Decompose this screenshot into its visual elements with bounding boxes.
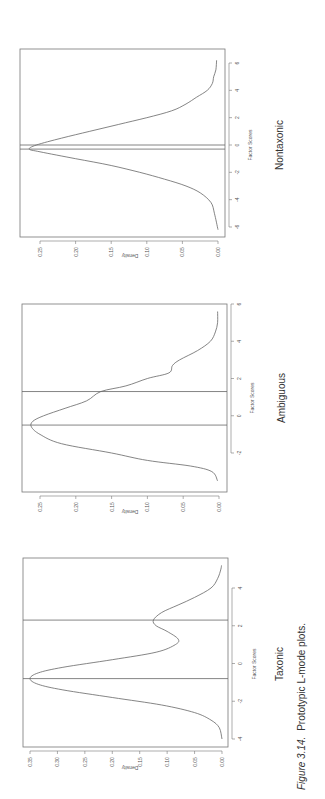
factor-score-tick-label: 4 <box>236 340 242 343</box>
factor-scores-axis: -20246 <box>231 302 242 455</box>
plot-frame <box>22 304 227 492</box>
cutoff-lines <box>20 145 225 149</box>
density-curve <box>30 565 222 739</box>
figure-caption: Figure 3.14. Prototypic L-mode plots. <box>296 623 307 790</box>
density-tick-label: 0.05 <box>179 247 185 257</box>
density-tick-label: 0.00 <box>215 247 221 257</box>
panel-title: Ambiguous <box>276 373 287 423</box>
plot-frame <box>20 49 225 237</box>
density-label: Density <box>121 253 138 259</box>
density-tick-label: 0.20 <box>73 247 79 257</box>
density-tick-label: 0.05 <box>180 502 186 512</box>
factor-score-tick-label: 0 <box>237 662 243 665</box>
factor-score-tick-label: 4 <box>237 586 243 589</box>
factor-score-tick-label: 2 <box>234 116 240 119</box>
density-tick-label: 0.30 <box>54 757 60 767</box>
panel-nontaxonic: 0.000.050.100.150.200.25 -6-4-20246 Dens… <box>20 49 285 259</box>
density-tick-label: 0.25 <box>82 757 88 767</box>
density-tick-label: 0.35 <box>27 757 33 767</box>
panel-title: Taxonic <box>274 647 285 681</box>
factor-scores-axis: -6-4-20246 <box>229 61 240 229</box>
panel-ambiguous: 0.000.050.100.150.200.25 -20246 Density … <box>22 302 287 515</box>
density-tick-label: 0.25 <box>37 502 43 512</box>
density-tick-label: 0.20 <box>109 757 115 767</box>
factor-scores-label: Factor Scores <box>247 129 253 161</box>
factor-score-tick-label: -2 <box>236 451 242 456</box>
density-tick-label: 0.05 <box>192 757 198 767</box>
factor-scores-axis: -4-2024 <box>232 586 243 741</box>
figure-svg: 0.000.050.100.150.200.25 -6-4-20246 Dens… <box>0 0 325 799</box>
factor-score-tick-label: 2 <box>237 624 243 627</box>
factor-score-tick-label: -2 <box>234 170 240 175</box>
factor-score-tick-label: 2 <box>236 377 242 380</box>
factor-score-tick-label: 4 <box>234 89 240 92</box>
density-tick-label: 0.10 <box>144 502 150 512</box>
panel-title: Nontaxonic <box>274 120 285 170</box>
density-tick-label: 0.15 <box>108 247 114 257</box>
factor-score-tick-label: 6 <box>236 302 242 305</box>
factor-scores-label: Factor Scores <box>251 648 257 680</box>
cutoff-lines <box>23 620 228 679</box>
density-tick-label: 0.10 <box>164 757 170 767</box>
factor-score-tick-label: -2 <box>237 699 243 704</box>
plot-frame <box>23 558 228 747</box>
density-tick-label: 0.25 <box>37 247 43 257</box>
factor-score-tick-label: 6 <box>234 61 240 64</box>
figure-page: 0.000.050.100.150.200.25 -6-4-20246 Dens… <box>0 0 325 799</box>
density-label: Density <box>121 509 138 515</box>
density-tick-label: 0.10 <box>144 247 150 257</box>
density-curve <box>31 312 218 481</box>
factor-score-tick-label: -6 <box>234 225 240 230</box>
density-tick-label: 0.00 <box>219 757 225 767</box>
factor-score-tick-label: 0 <box>234 143 240 146</box>
density-label: Density <box>121 765 138 771</box>
cutoff-lines <box>22 392 227 426</box>
factor-score-tick-label: -4 <box>237 737 243 742</box>
caption-text: Prototypic L-mode plots. <box>296 623 307 731</box>
figure-label: Figure 3.14. <box>296 737 307 790</box>
factor-score-tick-label: -4 <box>234 197 240 202</box>
density-axis: 0.000.050.100.150.200.250.300.35 <box>27 751 225 767</box>
density-tick-label: 0.20 <box>73 502 79 512</box>
density-tick-label: 0.00 <box>216 502 222 512</box>
factor-score-tick-label: 0 <box>236 414 242 417</box>
panel-taxonic: 0.000.050.100.150.200.250.300.35 -4-2024… <box>23 558 285 771</box>
factor-scores-label: Factor Scores <box>249 382 255 414</box>
density-tick-label: 0.15 <box>109 502 115 512</box>
